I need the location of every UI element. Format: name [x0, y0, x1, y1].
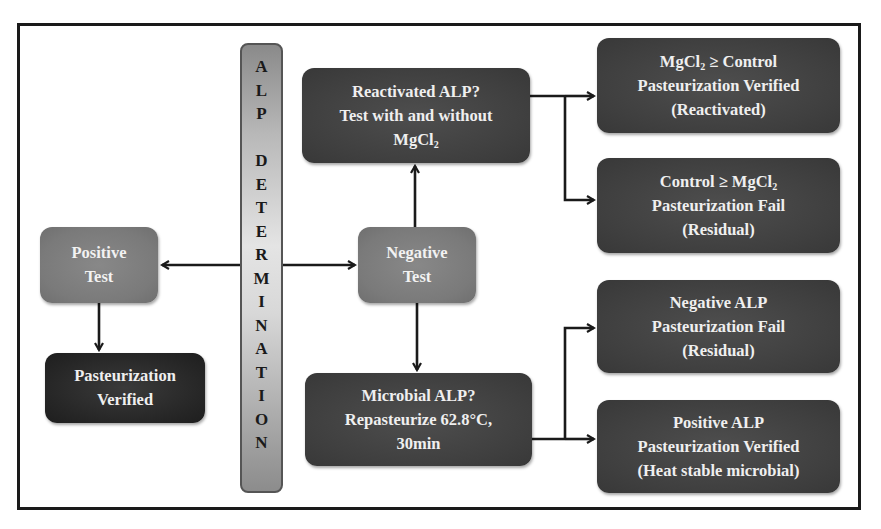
pasteurization-verified-node: Pasteurization Verified [45, 353, 205, 423]
node-label: Positive [72, 241, 127, 265]
bar-letter: E [256, 173, 267, 197]
bar-letter: P [256, 102, 266, 126]
outcome-negative-alp-fail: Negative ALP Pasteurization Fail (Residu… [597, 280, 840, 373]
bar-letter: T [256, 196, 267, 220]
node-label: Positive ALP [673, 411, 764, 435]
bar-letter: M [253, 267, 269, 291]
node-label: (Heat stable microbial) [638, 459, 800, 483]
node-label: Control ≥ MgCl2 [660, 170, 777, 194]
node-label: Microbial ALP? [362, 384, 476, 408]
bar-letter: A [255, 337, 267, 361]
node-label: Pasteurization [74, 364, 176, 388]
bar-letter: R [255, 243, 267, 267]
bar-letter: N [255, 314, 267, 338]
node-label: Verified [97, 388, 153, 412]
node-label: (Residual) [682, 218, 754, 242]
node-label: Negative ALP [670, 291, 768, 315]
outcome-residual-fail-control: Control ≥ MgCl2 Pasteurization Fail (Res… [597, 158, 840, 253]
reactivated-alp-node: Reactivated ALP? Test with and without M… [302, 68, 530, 163]
node-label: Pasteurization Fail [652, 194, 785, 218]
positive-test-node: Positive Test [40, 227, 158, 303]
microbial-alp-node: Microbial ALP? Repasteurize 62.8°C, 30mi… [305, 373, 532, 466]
node-label: Pasteurization Fail [652, 315, 785, 339]
node-label: MgCl2 ≥ Control [660, 50, 777, 74]
bar-letter: I [258, 384, 265, 408]
node-label: MgCl2 [393, 128, 438, 152]
bar-letter: O [255, 408, 268, 432]
node-label: Repasteurize 62.8°C, [345, 408, 492, 432]
bar-letter: D [255, 149, 267, 173]
bar-letter: E [256, 220, 267, 244]
bar-letter: N [255, 431, 267, 455]
bar-letter: T [256, 361, 267, 385]
bar-letter: I [258, 290, 265, 314]
alp-determination-bar: A L P D E T E R M I N A T I O N [240, 43, 283, 493]
outcome-reactivated-verified: MgCl2 ≥ Control Pasteurization Verified … [597, 38, 840, 133]
node-label: (Residual) [682, 339, 754, 363]
node-label: Pasteurization Verified [638, 435, 800, 459]
bar-letter: L [256, 79, 267, 103]
node-label: Reactivated ALP? [352, 80, 480, 104]
node-label: (Reactivated) [671, 98, 765, 122]
node-label: Test [403, 265, 432, 289]
node-label: Test [85, 265, 114, 289]
negative-test-node: Negative Test [358, 227, 476, 303]
node-label: Test with and without [340, 104, 493, 128]
node-label: 30min [396, 432, 440, 456]
bar-letter: A [255, 55, 267, 79]
node-label: Pasteurization Verified [638, 74, 800, 98]
node-label: Negative [386, 241, 447, 265]
outcome-positive-alp-verified: Positive ALP Pasteurization Verified (He… [597, 400, 840, 493]
